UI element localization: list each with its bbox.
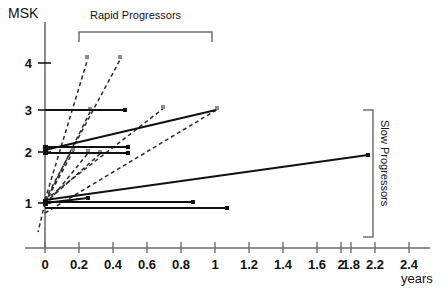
x-tick-label: 1.6 <box>308 258 326 271</box>
x-tick-label: 2.4 <box>400 258 418 271</box>
x-tick-label: 0.8 <box>172 258 190 271</box>
solid-endpoints <box>43 108 370 210</box>
x-tick-label: 2 <box>337 258 344 271</box>
rapid-progressors-bracket <box>79 32 212 42</box>
trajectory-line <box>45 58 88 200</box>
x-tick-label: 0.4 <box>104 258 122 271</box>
x-tick-label: 1.8 <box>342 258 360 271</box>
x-tick-label: 0.2 <box>70 258 88 271</box>
trajectory-line <box>45 58 121 200</box>
trajectory-line <box>38 203 45 232</box>
slow-progressors-bracket <box>363 110 373 237</box>
y-tick-label: 1 <box>14 197 32 210</box>
x-tick-label: 1 <box>211 258 218 271</box>
y-tick-label: 2 <box>14 146 32 159</box>
trajectory-line <box>45 155 368 200</box>
slow-progressors-label: Slow Progressors <box>379 120 390 206</box>
y-tick-label: 4 <box>14 57 32 70</box>
x-tick-label: 1.2 <box>240 258 258 271</box>
y-tick-label: 3 <box>14 104 32 117</box>
trajectory-line <box>45 109 218 213</box>
x-tick-label: 0.6 <box>138 258 156 271</box>
x-tick-label: 0 <box>41 258 48 271</box>
x-axis-title: years <box>401 272 433 285</box>
y-axis-title: MSK <box>8 6 38 20</box>
rapid-progressors-label: Rapid Progressors <box>90 10 181 21</box>
x-tick-label: 1.4 <box>274 258 292 271</box>
msk-progression-chart: MSK years Rapid Progressors Slow Progres… <box>0 0 446 296</box>
x-tick-label: 2.2 <box>366 258 384 271</box>
